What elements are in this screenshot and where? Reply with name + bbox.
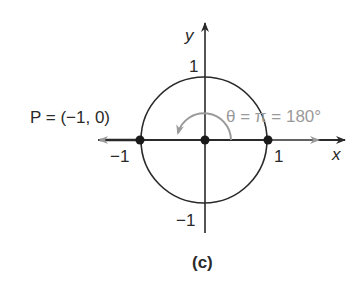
y-tick-neg1: −1 — [176, 211, 195, 230]
y-axis-label: y — [184, 26, 195, 45]
point-one-zero — [264, 136, 273, 145]
origin-point — [201, 136, 210, 145]
x-tick-neg1: −1 — [110, 147, 129, 166]
point-p — [136, 136, 145, 145]
x-axis-label: x — [331, 145, 341, 164]
y-tick-1: 1 — [189, 57, 198, 76]
unit-circle-diagram: y x 1 −1 −1 1 P = (−1, 0) θ = π = 180° (… — [0, 0, 364, 297]
x-tick-1: 1 — [274, 147, 283, 166]
angle-label: θ = π = 180° — [226, 107, 321, 126]
figure-caption: (c) — [192, 253, 213, 272]
point-label: P = (−1, 0) — [30, 108, 110, 127]
